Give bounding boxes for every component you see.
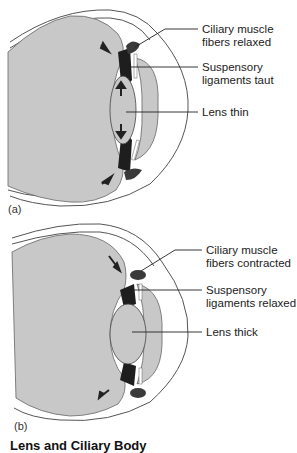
label-ciliary-a-line1: Ciliary muscle xyxy=(202,23,274,36)
panel-tag-b: (b) xyxy=(14,420,27,432)
label-suspensory-b-line2: ligaments relaxed xyxy=(206,297,296,310)
figure-caption: Lens and Ciliary Body xyxy=(10,438,147,453)
label-suspensory-a-line2: ligaments taut xyxy=(202,74,274,87)
panel-a-eye xyxy=(8,10,188,206)
label-ciliary-a: Ciliary muscle fibers relaxed xyxy=(202,23,274,49)
panel-b-eye xyxy=(12,224,188,421)
label-ciliary-b: Ciliary muscle fibers contracted xyxy=(206,244,291,270)
label-suspensory-a-line1: Suspensory xyxy=(202,61,274,74)
label-ciliary-b-line1: Ciliary muscle xyxy=(206,244,291,257)
label-lens-b: Lens thick xyxy=(206,326,258,339)
label-ciliary-a-line2: fibers relaxed xyxy=(202,36,274,49)
label-lens-a: Lens thin xyxy=(202,106,249,119)
label-suspensory-b: Suspensory ligaments relaxed xyxy=(206,284,296,310)
label-suspensory-b-line1: Suspensory xyxy=(206,284,296,297)
label-suspensory-a: Suspensory ligaments taut xyxy=(202,61,274,87)
panel-tag-a: (a) xyxy=(8,203,21,215)
label-lens-a-line1: Lens thin xyxy=(202,106,249,119)
label-ciliary-b-line2: fibers contracted xyxy=(206,257,291,270)
label-lens-b-line1: Lens thick xyxy=(206,326,258,339)
